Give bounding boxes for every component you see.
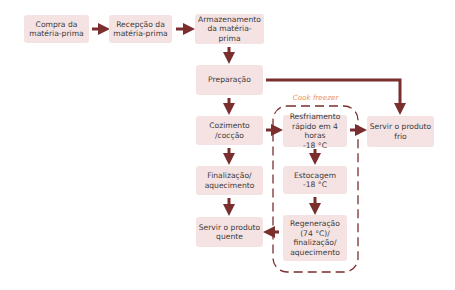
node-compra: Compra da matéria-prima [24,15,89,43]
node-recepcao: Recepção da matéria-prima [109,15,172,43]
node-servir-quente: Servir o produto quente [196,217,263,247]
node-resfriamento: Resfriamento rápido em 4 horas -18 °C [283,115,347,147]
node-armazenamento: Armazenamento da matéria-prima [195,14,264,44]
node-finalizacao: Finalização/ aquecimento [196,166,263,195]
cook-freezer-label: Cook freezer [273,93,358,102]
node-cozimento: Cozimento /cocção [196,116,263,145]
node-regeneracao: Regeneração (74 °C)/ finalização/ aqueci… [283,215,347,261]
node-preparacao: Preparação [196,65,263,95]
node-estocagem: Estocagem -18 °C [283,166,347,194]
node-servir-frio: Servir o produto frio [367,116,434,147]
